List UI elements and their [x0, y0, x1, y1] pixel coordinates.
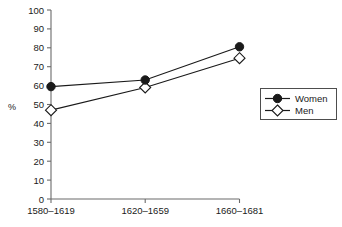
line-chart: 100 90 80 70 60 50 40 30 20 10 0 1580–16… [0, 0, 342, 227]
y-tick-label: 40 [33, 118, 44, 129]
y-tick-marks [47, 10, 51, 199]
x-tick-label: 1620–1659 [121, 205, 169, 216]
y-tick-label: 50 [33, 99, 44, 110]
y-tick-label: 100 [28, 5, 44, 16]
x-tick-labels: 1580–1619 1620–1659 1660–1681 [27, 205, 263, 216]
y-tick-label: 20 [33, 156, 44, 167]
y-tick-label: 60 [33, 80, 44, 91]
legend-marker-women-circle-icon [273, 94, 281, 102]
y-tick-label: 90 [33, 23, 44, 34]
y-tick-label: 80 [33, 42, 44, 53]
x-tick-marks [51, 199, 240, 203]
chart-svg: 100 90 80 70 60 50 40 30 20 10 0 1580–16… [0, 0, 342, 227]
legend-label-women: Women [295, 93, 328, 104]
chart-legend: Women Men [261, 89, 337, 120]
y-tick-label: 0 [39, 194, 44, 205]
y-tick-label: 10 [33, 175, 44, 186]
y-tick-label: 70 [33, 61, 44, 72]
y-tick-labels: 100 90 80 70 60 50 40 30 20 10 0 [28, 5, 44, 205]
legend-label-men: Men [295, 105, 313, 116]
x-tick-label: 1660–1681 [216, 205, 264, 216]
y-tick-label: 30 [33, 137, 44, 148]
x-tick-label: 1580–1619 [27, 205, 75, 216]
y-axis-title: % [8, 102, 16, 112]
